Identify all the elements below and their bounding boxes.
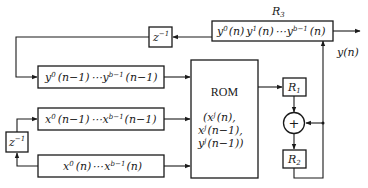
- wire-xcur-to-zleft: [17, 153, 38, 166]
- register-y-prev: y0(n−1)⋯yb−1(n−1): [38, 66, 164, 88]
- plus-icon: +: [289, 116, 300, 131]
- register-x-prev: x0(n−1)⋯xb−1(n−1): [38, 108, 164, 130]
- delay-z-top: z−1: [149, 27, 172, 47]
- svg-text:x0(n)⋯xb−1(n): x0(n)⋯xb−1(n): [63, 160, 142, 173]
- rom-line-3: yj(n−1)): [197, 137, 244, 150]
- register-r3: R3 y0(n)y1(n)⋯yb−1(n): [212, 5, 333, 41]
- wire-zleft-to-xprev: [17, 119, 37, 132]
- svg-text:y0(n−1)⋯yb−1(n−1): y0(n−1)⋯yb−1(n−1): [44, 71, 158, 84]
- r3-content: y0(n)y1(n)⋯yb−1(n): [216, 25, 325, 38]
- register-r2: R2: [283, 150, 306, 168]
- svg-text:x0(n−1)⋯xb−1(n−1): x0(n−1)⋯xb−1(n−1): [45, 113, 157, 126]
- output-label: y(n): [336, 46, 359, 59]
- delay-z-left: z−1: [6, 132, 28, 152]
- register-x-current: x0(n)⋯xb−1(n): [38, 155, 164, 177]
- rom-title: ROM: [211, 85, 239, 99]
- register-r1: R1: [283, 78, 306, 96]
- dsp-block-diagram: R3 y0(n)y1(n)⋯yb−1(n) y(n) z−1 y0(n−1)⋯y…: [0, 0, 368, 188]
- rom-line-1: (xj(n),: [203, 111, 236, 124]
- adder: +: [284, 113, 305, 134]
- svg-text:R3: R3: [271, 5, 285, 19]
- junction-dot: [322, 122, 325, 125]
- rom-block: ROM (xj(n), xj(n−1), yj(n−1)): [191, 60, 258, 178]
